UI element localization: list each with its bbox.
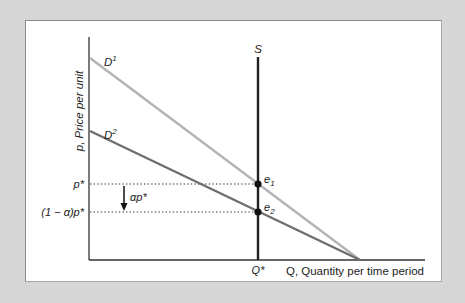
equilibrium-point-e1 — [254, 180, 261, 187]
p-low-tick-label: (1 − α)p* — [41, 206, 84, 218]
supply-demand-diagram: p, Price per unit D1 D2 S e1 e2 p* (1 − … — [0, 0, 465, 303]
e1-label: e1 — [264, 173, 275, 188]
d2-label: D2 — [104, 127, 117, 141]
d1-label: D1 — [104, 54, 117, 68]
p-star-tick-label: p* — [73, 178, 85, 190]
equilibrium-point-e2 — [254, 208, 261, 215]
supply-label: S — [254, 43, 262, 55]
arrow-head-icon — [121, 203, 128, 211]
demand-curve-d1 — [90, 58, 360, 260]
arrow-label: αp* — [130, 191, 147, 203]
x-axis-label: Q, Quantity per time period — [286, 265, 424, 277]
q-star-tick-label: Q* — [252, 264, 266, 276]
y-axis-label: p, Price per unit — [73, 70, 85, 152]
